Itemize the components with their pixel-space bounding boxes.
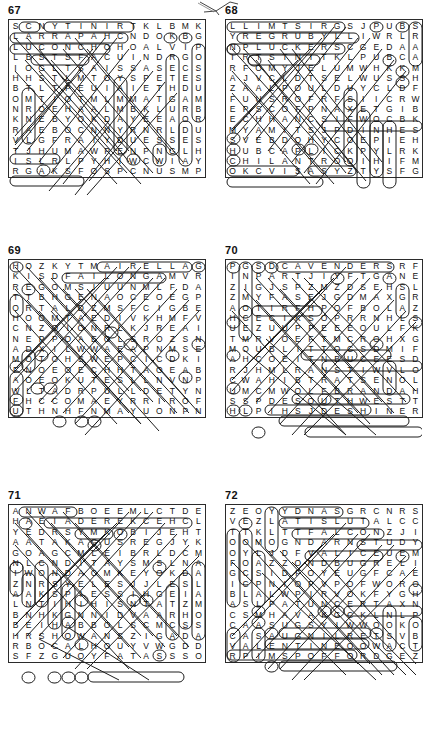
grid-cell: E xyxy=(179,135,192,145)
grid-cell: O xyxy=(192,651,205,661)
grid-cell: L xyxy=(153,261,166,271)
grid-cell: R xyxy=(317,94,330,104)
grid-cell: S xyxy=(317,115,330,125)
grid-cell: B xyxy=(226,589,239,599)
grid-cell: O xyxy=(409,579,422,589)
grid-cell: A xyxy=(265,271,278,281)
grid-cell: J xyxy=(239,365,252,375)
grid-cell: A xyxy=(74,271,87,281)
grid-cell: F xyxy=(370,568,383,578)
grid-cell: P xyxy=(370,21,383,31)
grid-cell: H xyxy=(357,406,370,416)
grid-cell: C xyxy=(304,115,317,125)
grid-cell: G xyxy=(226,568,239,578)
grid-cell: A xyxy=(140,651,153,661)
grid-cell: S xyxy=(179,344,192,354)
grid-cell: C xyxy=(239,313,252,323)
grid-cell: R xyxy=(48,527,61,537)
grid-cell: O xyxy=(114,527,127,537)
grid-cell: C xyxy=(48,396,61,406)
grid-cell: E xyxy=(140,292,153,302)
grid-cell: N xyxy=(396,271,409,281)
grid-row: PGSDCAVENDERSRF xyxy=(226,261,422,271)
grid-cell: C xyxy=(265,313,278,323)
grid-cell: S xyxy=(409,21,422,31)
grid-cell: G xyxy=(278,537,291,547)
grid-cell: A xyxy=(22,589,35,599)
grid-cell: S xyxy=(331,506,344,516)
grid-cell: A xyxy=(22,125,35,135)
grid-cell: T xyxy=(48,73,61,83)
grid-cell: H xyxy=(265,375,278,385)
grid-row: LLIMTSIRGSJPUBS xyxy=(226,21,422,31)
grid-row: YEDRSYMKOBIJEHT xyxy=(9,527,205,537)
grid-cell: I xyxy=(9,156,22,166)
grid-cell: L xyxy=(9,600,22,610)
grid-cell: H xyxy=(166,516,179,526)
grid-cell: I xyxy=(304,589,317,599)
grid-cell: S xyxy=(291,396,304,406)
grid-cell: D xyxy=(370,651,383,661)
grid-cell: R xyxy=(166,52,179,62)
grid-cell: J xyxy=(291,63,304,73)
grid-cell: S xyxy=(179,620,192,630)
grid-cell: V xyxy=(127,610,140,620)
grid-cell: B xyxy=(265,344,278,354)
grid-cell: Y xyxy=(252,292,265,302)
grid-cell: Z xyxy=(127,631,140,641)
grid-cell: F xyxy=(100,651,113,661)
grid-cell: N xyxy=(383,406,396,416)
grid-cell: L xyxy=(317,63,330,73)
grid-cell: R xyxy=(409,31,422,41)
grid-cell: U xyxy=(192,125,205,135)
grid-row: CNZOIONRLKJREAI xyxy=(9,323,205,333)
grid-cell: P xyxy=(252,579,265,589)
grid-cell: F xyxy=(226,94,239,104)
grid-cell: O xyxy=(61,631,74,641)
grid-cell: E xyxy=(74,83,87,93)
grid-cell: I xyxy=(166,156,179,166)
grid-cell: R xyxy=(239,31,252,41)
grid-cell: E xyxy=(370,375,383,385)
grid-cell: E xyxy=(166,63,179,73)
grid-cell: D xyxy=(317,558,330,568)
grid-row: AHCOEITNBUCEESD xyxy=(226,355,422,365)
grid-cell: G xyxy=(357,42,370,52)
grid-cell: S xyxy=(239,600,252,610)
grid-cell: I xyxy=(239,282,252,292)
grid-cell: K xyxy=(140,21,153,31)
grid-cell: L xyxy=(114,620,127,630)
grid-cell: A xyxy=(100,558,113,568)
grid-cell: H xyxy=(87,641,100,651)
grid-cell: E xyxy=(396,406,409,416)
grid-cell: T xyxy=(153,94,166,104)
grid-cell: D xyxy=(140,386,153,396)
grid-cell: O xyxy=(265,355,278,365)
grid-cell: U xyxy=(383,537,396,547)
grid-cell: T xyxy=(317,344,330,354)
grid-cell: A xyxy=(9,375,22,385)
grid-cell: Y xyxy=(370,166,383,176)
grid-cell: S xyxy=(383,166,396,176)
grid-cell: E xyxy=(166,323,179,333)
grid-cell: A xyxy=(61,641,74,651)
grid-cell: M xyxy=(331,334,344,344)
grid-cell: T xyxy=(35,94,48,104)
grid-cell: K xyxy=(291,42,304,52)
grid-cell: M xyxy=(226,344,239,354)
grid-body-69: HOZKYTMAIRELLAGKISDFAILONGAMVRREGOMSIUUN… xyxy=(9,261,205,417)
grid-row: CHILANTROOIHIFM xyxy=(226,156,422,166)
grid-cell: O xyxy=(344,135,357,145)
grid-cell: L xyxy=(166,261,179,271)
grid-row: AOTIRFHPOFBOLAZ xyxy=(226,303,422,313)
grid-cell: B xyxy=(48,125,61,135)
grid-cell: A xyxy=(114,406,127,416)
grid-cell: K xyxy=(166,31,179,41)
grid-cell: L xyxy=(35,83,48,93)
grid-cell: M xyxy=(166,344,179,354)
grid-cell: O xyxy=(383,620,396,630)
grid-cell: K xyxy=(357,589,370,599)
grid-cell: I xyxy=(357,156,370,166)
grid-cell: P xyxy=(265,600,278,610)
grid-cell: V xyxy=(226,516,239,526)
